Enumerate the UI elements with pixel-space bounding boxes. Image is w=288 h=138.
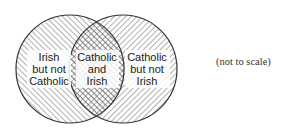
venn-diagram: Irish but not Catholic Catholic and Iris… xyxy=(0,0,288,138)
intersection-label-3: Irish xyxy=(87,75,108,87)
right-region-label-2: but not xyxy=(130,63,164,75)
left-region-label-3: Catholic xyxy=(29,75,69,87)
right-region-label-1: Catholic xyxy=(127,51,167,63)
left-region-label-2: but not xyxy=(32,63,66,75)
left-region-label-1: Irish xyxy=(39,51,60,63)
not-to-scale-note: (not to scale) xyxy=(216,56,271,67)
intersection-label-1: Catholic xyxy=(77,51,117,63)
intersection-label-2: and xyxy=(88,63,106,75)
right-region-label-3: Irish xyxy=(137,75,158,87)
